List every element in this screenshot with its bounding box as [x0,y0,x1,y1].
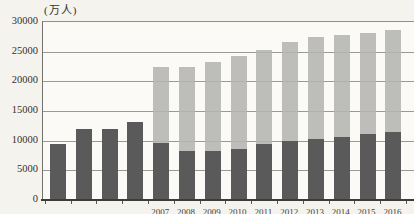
bar-7-segment-light [205,62,221,151]
bar-9-segment-light [256,50,272,144]
bar-8-segment-light [231,56,247,149]
bar-7-segment-dark [205,151,221,200]
x-axis-label-2015: 2015 [354,207,380,214]
bar-5-segment-light [153,67,169,144]
plot-area [42,21,414,200]
x-axis-label-2009: 2009 [199,207,225,214]
x-axis-tick [251,201,252,204]
bar-10-segment-dark [282,141,298,200]
x-axis-label-2013: 2013 [302,207,328,214]
x-axis-tick [380,201,381,204]
x-axis-tick [277,201,278,204]
y-axis-tick-label-20000: 20000 [0,74,38,86]
bar-8-segment-dark [231,149,247,200]
x-axis-tick [329,201,330,204]
bar-3-segment-dark [102,129,118,200]
x-axis-tick [225,201,226,204]
bar-12-segment-dark [334,137,350,200]
bar-13-segment-dark [360,134,376,200]
bar-6-segment-dark [179,151,195,200]
x-axis-label-2007: 2007 [147,207,173,214]
x-axis-tick [148,201,149,204]
x-axis-tick [71,201,72,204]
x-axis-tick [45,201,46,204]
x-axis-label-2008: 2008 [173,207,199,214]
gridline-15000 [43,111,414,112]
x-axis-label-2010: 2010 [225,207,251,214]
y-axis-tick-label-15000: 15000 [0,104,38,116]
y-axis-tick-label-30000: 30000 [0,15,38,27]
bar-5-segment-dark [153,143,169,200]
bar-4-segment-dark [127,122,143,200]
bar-2-segment-dark [76,129,92,200]
y-axis-unit-label: (万人) [44,1,77,17]
bar-14-segment-light [385,30,401,132]
x-axis-tick [406,201,407,204]
x-axis-label-2016: 2016 [379,207,405,214]
y-axis-tick-label-25000: 25000 [0,45,38,57]
x-axis-tick [174,201,175,204]
gridline-25000 [43,52,414,53]
bar-1-segment-dark [50,144,66,200]
gridline-10000 [43,141,414,142]
x-axis-tick [303,201,304,204]
x-axis-label-2014: 2014 [328,207,354,214]
bar-14-segment-dark [385,132,401,200]
bar-9-segment-dark [256,144,272,200]
bar-11-segment-light [308,37,324,139]
y-axis-tick-label-5000: 5000 [0,163,38,175]
y-axis-tick-label-0: 0 [0,193,38,205]
bar-chart-figure: (万人) 05000100001500020000250003000020072… [0,0,414,214]
x-axis-label-2012: 2012 [276,207,302,214]
bar-12-segment-light [334,35,350,138]
bar-10-segment-light [282,42,298,142]
x-axis-tick [96,201,97,204]
bar-11-segment-dark [308,139,324,200]
x-axis-label-2011: 2011 [250,207,276,214]
gridline-5000 [43,170,414,171]
y-axis-tick-label-10000: 10000 [0,134,38,146]
x-axis-tick [354,201,355,204]
gridline-20000 [43,81,414,82]
bar-6-segment-light [179,67,195,152]
bar-13-segment-light [360,33,376,135]
x-axis-tick [200,201,201,204]
x-axis-tick [122,201,123,204]
